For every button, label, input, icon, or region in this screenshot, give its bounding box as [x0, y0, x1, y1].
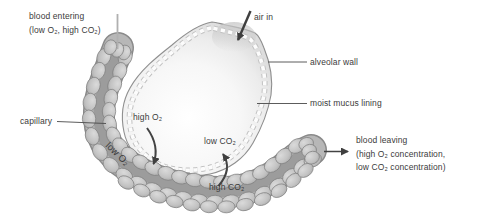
label-air-in: air in [254, 11, 273, 25]
alveolus [122, 22, 271, 176]
label-capillary: capillary [20, 115, 52, 129]
label-blood-leaving-line1: blood leaving [356, 134, 446, 148]
label-blood-leaving-line3: low CO₂ concentration) [356, 161, 446, 175]
label-high-co2: high CO₂ [209, 181, 244, 195]
label-blood-entering-line2: (low O₂, high CO₂) [29, 24, 101, 38]
label-blood-entering: blood entering (low O₂, high CO₂) [29, 10, 101, 37]
label-moist-mucus-lining: moist mucus lining [310, 97, 382, 111]
neck-shading [212, 22, 256, 52]
label-blood-entering-line1: blood entering [29, 10, 101, 24]
label-low-co2: low CO₂ [204, 135, 236, 149]
label-blood-leaving-line2: (high O₂ concentration, [356, 148, 446, 162]
label-alveolar-wall: alveolar wall [310, 56, 358, 70]
label-blood-leaving: blood leaving (high O₂ concentration, lo… [356, 134, 446, 175]
alveolus-gas-exchange-diagram: blood entering (low O₂, high CO₂) air in… [0, 0, 477, 216]
label-high-o2: high O₂ [133, 111, 162, 125]
